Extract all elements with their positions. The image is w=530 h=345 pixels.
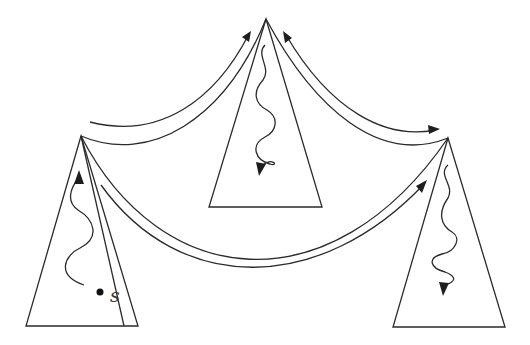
- top-triangle: [209, 19, 322, 207]
- edge-left-to-top: [81, 19, 266, 145]
- source-dot-icon: [97, 289, 104, 296]
- tree-diagram: s: [0, 0, 530, 345]
- wavy-arrow-left: [65, 170, 93, 285]
- arrowhead-icon: [428, 125, 440, 134]
- edge-top-to-right: [266, 19, 448, 145]
- source-point: s: [97, 284, 121, 306]
- source-label: s: [110, 284, 120, 306]
- wavy-arrow-top: [256, 45, 275, 176]
- arrowhead-icon: [283, 31, 292, 43]
- arrowhead-icon: [242, 31, 251, 42]
- right-triangle: [393, 138, 505, 327]
- arrowhead-icon: [256, 162, 266, 176]
- edge-left-to-right: [81, 136, 448, 267]
- left-triangle: [26, 136, 138, 326]
- wavy-arrow-right: [432, 165, 457, 296]
- arrowhead-icon: [439, 282, 449, 296]
- arrowhead-icon: [74, 170, 84, 184]
